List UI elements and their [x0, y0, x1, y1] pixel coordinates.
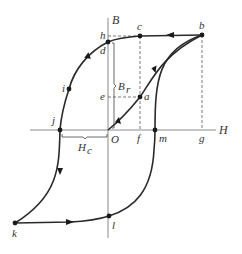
label-i: i — [62, 82, 65, 94]
h-axis-label: H — [218, 123, 229, 137]
label-d: d — [100, 44, 106, 56]
label-k: k — [12, 227, 18, 239]
arrow-k-to-l-icon — [66, 219, 74, 225]
coercivity-bracket — [62, 134, 107, 139]
point-a — [138, 95, 143, 100]
origin-label: O — [111, 133, 119, 145]
arrow-b-to-c-icon — [166, 32, 174, 38]
point-d — [106, 40, 111, 45]
arrow-j-to-k-icon — [57, 168, 63, 175]
label-b: b — [199, 19, 205, 31]
label-a: a — [144, 90, 150, 102]
label-l: l — [112, 219, 115, 231]
label-m: m — [159, 132, 167, 144]
remanence-subscript: r — [126, 83, 131, 95]
label-c: c — [137, 20, 142, 32]
coercivity-subscript: c — [87, 144, 92, 156]
label-g: g — [199, 132, 205, 144]
label-h: h — [100, 29, 106, 41]
hysteresis-diagram: B H O b c h d i j k l m f g a e B r H c — [0, 0, 242, 254]
point-k — [13, 221, 18, 226]
point-i — [67, 87, 72, 92]
b-axis-label: B — [112, 13, 120, 27]
label-f: e — [100, 90, 105, 102]
point-m — [153, 128, 158, 133]
point-b — [200, 33, 205, 38]
remanence-label: B — [118, 80, 125, 92]
point-l — [107, 214, 112, 219]
coercivity-label: H — [77, 141, 87, 153]
remanence-bracket — [112, 43, 116, 128]
point-c — [138, 34, 143, 39]
label-e: f — [137, 132, 142, 144]
label-j: j — [50, 114, 55, 126]
point-j — [58, 128, 63, 133]
